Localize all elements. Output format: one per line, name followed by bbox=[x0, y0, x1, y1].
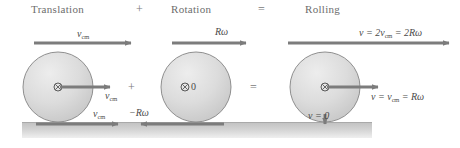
operator-plus-top: + bbox=[136, 2, 143, 17]
label-translation-center-vcm: vcm bbox=[105, 90, 117, 101]
label-rolling-contact-velocity: v = 0 bbox=[308, 110, 329, 121]
rotation-ball bbox=[161, 52, 231, 122]
label-translation-bottom-vcm: vcm bbox=[93, 108, 105, 119]
heading-rolling: Rolling bbox=[305, 3, 340, 15]
figure-canvas bbox=[0, 0, 460, 148]
label-rotation-center-zero: 0 bbox=[191, 81, 196, 92]
operator-equals-top: = bbox=[258, 2, 265, 17]
operator-equals-middle: = bbox=[250, 80, 257, 95]
label-rolling-center-velocity: v = vcm = Rω bbox=[371, 91, 424, 102]
operator-plus-middle: + bbox=[128, 80, 135, 95]
heading-rotation: Rotation bbox=[171, 3, 211, 15]
label-rotation-top-romega: Rω bbox=[215, 26, 228, 37]
label-rotation-bottom-neg-romega: −Rω bbox=[129, 107, 149, 118]
label-rolling-top-velocity: v = 2vcm = 2Rω bbox=[359, 27, 422, 38]
rolling-motion-figure: Translation + Rotation = Rolling vcm vcm… bbox=[0, 0, 460, 148]
heading-translation: Translation bbox=[31, 3, 84, 15]
label-translation-top-vcm: vcm bbox=[77, 28, 89, 39]
